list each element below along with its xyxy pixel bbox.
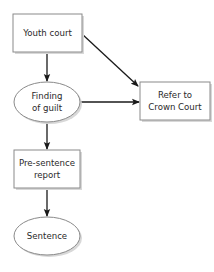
- node-youth-court: Youth court: [13, 14, 84, 54]
- node-label-line-2: of guilt: [32, 103, 63, 113]
- flowchart-canvas: Youth court Finding of guilt Refer to Cr…: [0, 0, 214, 272]
- node-rectangle: [14, 150, 80, 188]
- node-rectangle: [140, 82, 210, 120]
- node-sentence: Sentence: [14, 217, 82, 257]
- node-label-line-2: Crown Court: [148, 102, 202, 112]
- node-label-line-1: Pre-sentence: [19, 158, 75, 168]
- node-refer-crown-court: Refer to Crown Court: [140, 82, 212, 122]
- node-label-line-1: Finding: [32, 91, 63, 101]
- node-label: Youth court: [22, 28, 72, 38]
- node-label-line-2: report: [34, 170, 61, 180]
- node-finding-of-guilt: Finding of guilt: [14, 82, 82, 124]
- node-label: Sentence: [27, 231, 67, 241]
- node-label-line-1: Refer to: [158, 90, 192, 100]
- edge-youth-court-to-refer-crown-court: [82, 34, 138, 86]
- node-pre-sentence-report: Pre-sentence report: [14, 150, 82, 190]
- node-ellipse: [14, 82, 80, 122]
